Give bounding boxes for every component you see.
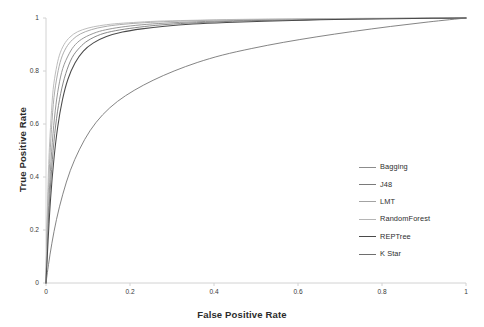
x-tick-label: 0.2 [115, 288, 145, 295]
legend-item-k-star[interactable]: K Star [359, 245, 430, 262]
legend-line-swatch [359, 181, 376, 188]
legend-item-bagging[interactable]: Bagging [359, 158, 430, 175]
legend-line-swatch [359, 198, 376, 205]
legend-label: REPTree [380, 232, 411, 241]
y-tick-label: 0.8 [13, 67, 39, 74]
y-tick-label: 0.2 [13, 226, 39, 233]
legend-label: LMT [380, 197, 395, 206]
roc-curve-figure: False Positive Rate True Positive Rate 0… [0, 0, 484, 327]
x-tick-label: 1 [451, 288, 481, 295]
y-tick-label: 0.6 [13, 120, 39, 127]
legend: BaggingJ48LMTRandomForestREPTreeK Star [359, 158, 430, 262]
legend-line-swatch [359, 233, 376, 240]
legend-item-reptree[interactable]: REPTree [359, 228, 430, 245]
x-tick-label: 0.6 [283, 288, 313, 295]
legend-label: Bagging [380, 162, 408, 171]
y-tick-label: 1 [13, 14, 39, 21]
x-axis-title: False Positive Rate [0, 309, 484, 320]
legend-line-swatch [359, 250, 376, 257]
legend-item-lmt[interactable]: LMT [359, 193, 430, 210]
y-tick-label: 0.4 [13, 173, 39, 180]
x-tick-label: 0.4 [199, 288, 229, 295]
legend-line-swatch [359, 215, 376, 222]
legend-item-j48[interactable]: J48 [359, 175, 430, 192]
x-tick-label: 0.8 [367, 288, 397, 295]
legend-label: RandomForest [380, 214, 430, 223]
y-tick-label: 0 [13, 279, 39, 286]
legend-line-swatch [359, 163, 376, 170]
y-axis-title: True Positive Rate [17, 80, 28, 220]
legend-item-randomforest[interactable]: RandomForest [359, 210, 430, 227]
legend-label: K Star [380, 249, 401, 258]
legend-label: J48 [380, 180, 392, 189]
x-tick-label: 0 [31, 288, 61, 295]
